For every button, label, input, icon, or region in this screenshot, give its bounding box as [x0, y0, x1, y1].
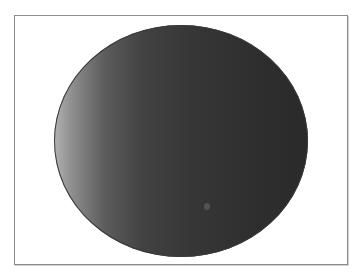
surface-spot: [204, 203, 210, 210]
shaded-ellipse: [54, 25, 308, 257]
figure-frame: [14, 15, 348, 265]
cropped-caption-text: [0, 0, 362, 3]
